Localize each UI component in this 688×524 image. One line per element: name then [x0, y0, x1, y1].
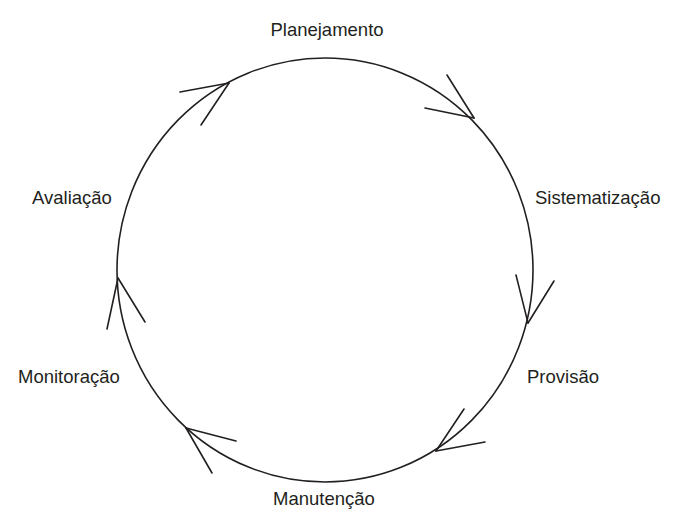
stage-label-avaliacao: Avaliação: [32, 187, 112, 209]
arrow-monitoracao-to-avaliacao-icon: [107, 278, 145, 329]
cycle-circle: [117, 58, 533, 482]
stage-label-provisao: Provisão: [527, 366, 599, 388]
arrow-planejamento-to-sistematizacao-icon: [425, 75, 474, 118]
arrow-sistematizacao-to-provisao-icon: [516, 275, 554, 323]
cycle-diagram: [0, 0, 688, 524]
arrow-avaliacao-to-planejamento-icon: [180, 83, 229, 125]
stage-label-sistematizacao: Sistematização: [535, 187, 660, 209]
stage-label-monitoracao: Monitoração: [18, 366, 120, 388]
stage-label-manutencao: Manutenção: [273, 488, 375, 510]
stage-label-planejamento: Planejamento: [270, 19, 383, 41]
